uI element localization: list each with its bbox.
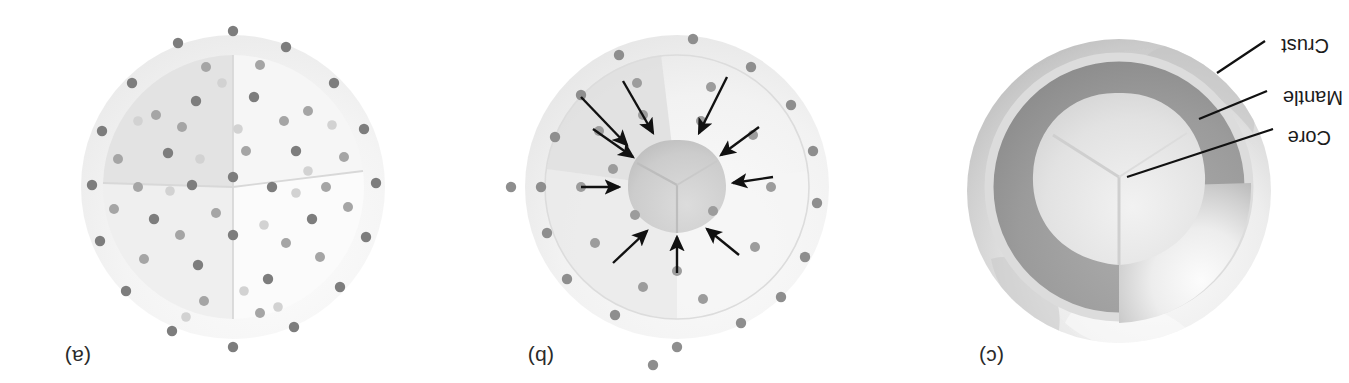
crust-label: Crust bbox=[1281, 34, 1329, 57]
panel-c-drawing bbox=[899, 0, 1349, 383]
earth-differentiation-figure: Core Mantle Crust (c) bbox=[0, 0, 1349, 383]
panel-label-c: (c) bbox=[979, 345, 1004, 369]
panel-label-a: (a) bbox=[64, 345, 91, 369]
panel-c-differentiated-earth: Core Mantle Crust (c) bbox=[899, 0, 1349, 383]
forming-core bbox=[628, 140, 726, 233]
panel-a-homogeneous-earth: (a) bbox=[0, 0, 444, 383]
crust-leader-line bbox=[1217, 41, 1265, 73]
panel-b-differentiating-earth: (b) bbox=[444, 0, 899, 383]
panel-label-b: (b) bbox=[527, 345, 554, 369]
mantle-label: Mantle bbox=[1283, 86, 1343, 109]
wedge-face-left bbox=[233, 55, 363, 187]
wedge-face-right bbox=[103, 55, 233, 187]
panel-b-drawing bbox=[444, 0, 899, 383]
panel-a-drawing bbox=[0, 0, 444, 383]
core-label: Core bbox=[1288, 126, 1331, 149]
wedge-face-back bbox=[103, 183, 233, 319]
